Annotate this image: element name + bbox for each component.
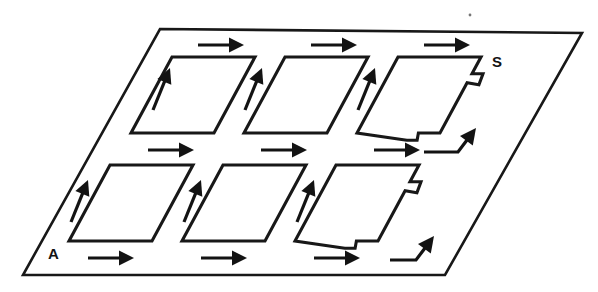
scan-specks-layer	[469, 14, 472, 17]
scan-speck	[469, 14, 472, 17]
parallelogram-grid-flow-diagram: SA	[0, 0, 598, 292]
diagram-label-a: A	[48, 245, 59, 262]
diagram-label-s: S	[492, 53, 502, 70]
diagram-canvas: SA	[0, 0, 598, 292]
